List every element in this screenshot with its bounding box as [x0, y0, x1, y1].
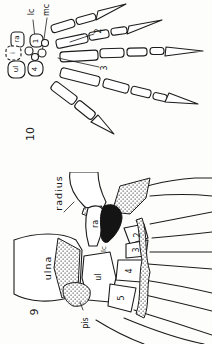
figure10-label-digit3: 3 — [100, 65, 109, 70]
figure9-label-carpal5: 5 — [117, 295, 126, 300]
figure9-label-pis: pis — [81, 317, 90, 328]
figure9-label-carpal2: 2 — [133, 232, 142, 237]
bone-metacarpal-4 — [59, 67, 100, 86]
metacarpal-outline — [140, 294, 212, 311]
bone-metacarpal-5 — [50, 81, 78, 106]
metacarpal-outline — [152, 232, 212, 238]
figure10-label-carpal4: 4 — [31, 66, 39, 71]
bone-phalanx — [150, 48, 164, 55]
radius-tick-line — [64, 202, 74, 212]
metacarpal-outline — [124, 318, 204, 344]
figure-10-panel: lc mc ra i ul 1 4 2 3 10 — [0, 0, 212, 172]
bone-pisiform-stippled — [63, 283, 90, 307]
figure-9-panel: radius ulna pis ra lc ul 2 3 4 5 9 — [0, 172, 212, 344]
figure9-label-radius: radius — [53, 175, 64, 210]
bone-centrale-laterale — [25, 47, 33, 55]
figure9-label-lc: lc — [100, 246, 108, 252]
figure10-label-lc: lc — [27, 9, 36, 16]
bone-metacarpal-1 — [50, 19, 75, 34]
bone-phalanx — [127, 48, 147, 56]
metacarpal-outline — [150, 212, 212, 224]
bone-phalanx — [75, 13, 96, 25]
bone-claw-digit-3 — [165, 47, 203, 56]
figure10-label-ra: ra — [13, 35, 21, 42]
bone-distal-carpal-2 — [38, 49, 46, 57]
figure9-label-ulna: ulna — [42, 256, 53, 281]
bone-claw-digit-4 — [165, 93, 198, 104]
figure9-label-ul: ul — [94, 273, 103, 280]
bone-claw-digit-1 — [96, 4, 126, 20]
leader-line-mc — [42, 18, 47, 53]
figure10-label-ul: ul — [12, 66, 20, 72]
bone-claw-digit-2 — [127, 20, 162, 34]
figure9-number: 9 — [28, 309, 41, 316]
metacarpal-outline — [148, 264, 212, 269]
bone-distal-carpal-3 — [42, 40, 49, 47]
bone-radius — [70, 172, 106, 212]
bone-metacarpal-3 — [60, 50, 98, 62]
bone-phalanx — [102, 78, 129, 93]
figure9-label-carpal4: 4 — [125, 268, 134, 273]
carpus-drawing: radius ulna pis ra lc ul 2 3 4 5 9 — [0, 172, 212, 344]
figure10-label-mc: mc — [42, 4, 51, 16]
manus-skeleton-drawing: lc mc ra i ul 1 4 2 3 10 — [0, 0, 212, 172]
metacarpal-outline — [144, 280, 212, 293]
bone-phalanx — [111, 26, 128, 35]
figure10-label-digit2: 2 — [94, 28, 103, 33]
figure10-number: 10 — [24, 127, 37, 141]
metacarpal-outline — [150, 195, 212, 197]
figure10-label-intermedium: i — [9, 52, 17, 54]
bone-claw-digit-5 — [91, 115, 114, 134]
figure9-label-ra: ra — [91, 220, 100, 228]
bone-lunate-centrale-black — [100, 205, 122, 243]
bone-phalanx — [130, 86, 151, 99]
bone-centrale-mediale — [32, 54, 39, 61]
scanned-figure-page: lc mc ra i ul 1 4 2 3 10 — [0, 0, 212, 344]
figure9-label-carpal3: 3 — [132, 247, 141, 252]
bone-phalanx — [74, 100, 97, 121]
bone-phalanx — [100, 48, 124, 58]
figure10-label-carpal1: 1 — [32, 39, 40, 43]
